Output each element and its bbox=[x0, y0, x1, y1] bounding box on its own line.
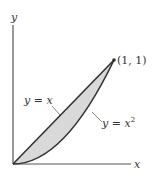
point-label: (1, 1) bbox=[117, 54, 147, 67]
label-exponent: 2 bbox=[131, 116, 135, 124]
y-axis-label: y bbox=[10, 11, 18, 24]
diagram-canvas: y x (1, 1) y = x y = x2 bbox=[0, 0, 153, 177]
leader-line-y-equals-x-squared bbox=[92, 112, 102, 122]
label-y-equals-x-squared: y = x2 bbox=[101, 116, 135, 130]
x-axis-label: x bbox=[134, 158, 141, 171]
label-y-equals-x-squared-base: y = x bbox=[101, 117, 131, 130]
label-y-equals-x: y = x bbox=[23, 94, 53, 107]
leader-line-y-equals-x bbox=[52, 106, 60, 115]
point-marker bbox=[112, 58, 116, 62]
curve-y-equals-x bbox=[13, 60, 114, 164]
